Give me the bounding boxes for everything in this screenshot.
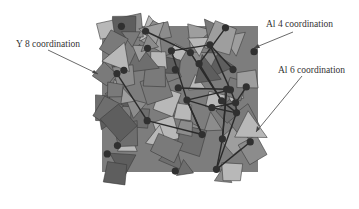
y-atom: [206, 41, 213, 48]
y-atom: [144, 117, 151, 124]
y-atom: [113, 70, 120, 77]
y-atom: [172, 66, 179, 73]
arrow-al4: [254, 32, 293, 48]
crystal-structure-figure: [0, 0, 359, 209]
y-atom: [233, 109, 240, 116]
y-atom: [222, 24, 229, 31]
y-atom: [144, 45, 151, 52]
y-atom: [183, 96, 190, 103]
y-atom: [175, 84, 182, 91]
y-atom: [229, 66, 236, 73]
y-atom: [208, 104, 215, 111]
y-atom: [250, 48, 257, 55]
y-atom: [213, 166, 220, 173]
arrow-al6: [256, 76, 302, 132]
y-atom: [172, 168, 179, 175]
annotation-al4-coordination: Al 4 coordination: [266, 19, 333, 29]
annotation-al6-coordination: Al 6 coordination: [278, 65, 345, 75]
polyhedron: [107, 82, 123, 97]
y-atom: [219, 135, 226, 142]
y-atom: [120, 67, 127, 74]
y-atom: [199, 131, 206, 138]
y-atom: [247, 138, 254, 145]
y-atom: [118, 23, 125, 30]
y-atom: [168, 47, 175, 54]
polyhedron: [103, 162, 127, 185]
arrow-y8: [48, 50, 98, 74]
y-atom: [227, 86, 234, 93]
annotation-y8-coordination: Y 8 coordination: [16, 39, 80, 49]
crystal-structure-model: [92, 13, 267, 185]
y-atom: [142, 28, 149, 35]
y-atom: [195, 60, 202, 67]
y-atom: [104, 150, 111, 157]
y-atom: [187, 49, 194, 56]
y-atom: [243, 83, 250, 90]
y-atom: [114, 142, 121, 149]
polyhedron: [222, 163, 243, 181]
y-atom: [232, 99, 239, 106]
y-atom: [218, 97, 225, 104]
